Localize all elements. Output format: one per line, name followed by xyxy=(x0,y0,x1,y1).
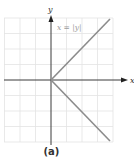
x-axis xyxy=(4,78,128,83)
lower-branch xyxy=(51,80,110,141)
y-axis-arrow-icon xyxy=(49,15,54,22)
graph-figure: x y x = |y| xyxy=(0,0,134,163)
equation-label: x = |y| xyxy=(57,23,82,32)
y-axis-label: y xyxy=(47,5,53,14)
x-axis-label: x xyxy=(130,76,134,85)
x-axis-arrow-icon xyxy=(121,78,128,83)
figure-caption: (a) xyxy=(0,146,103,157)
